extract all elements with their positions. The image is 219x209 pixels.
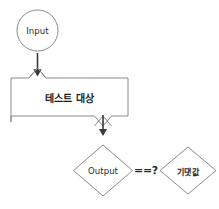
top-notch-right-tick: [38, 68, 47, 78]
expected-node-shape[interactable]: [160, 147, 216, 194]
input-node-shape[interactable]: [17, 10, 58, 51]
diagram-canvas: Input 테스트 대상 Output ==? 기댓값: [0, 0, 219, 209]
top-notch-left-tick: [29, 68, 38, 78]
diagram-svg: [0, 0, 219, 209]
test-target-node-shape[interactable]: [11, 68, 128, 126]
output-node-shape[interactable]: [74, 145, 133, 196]
